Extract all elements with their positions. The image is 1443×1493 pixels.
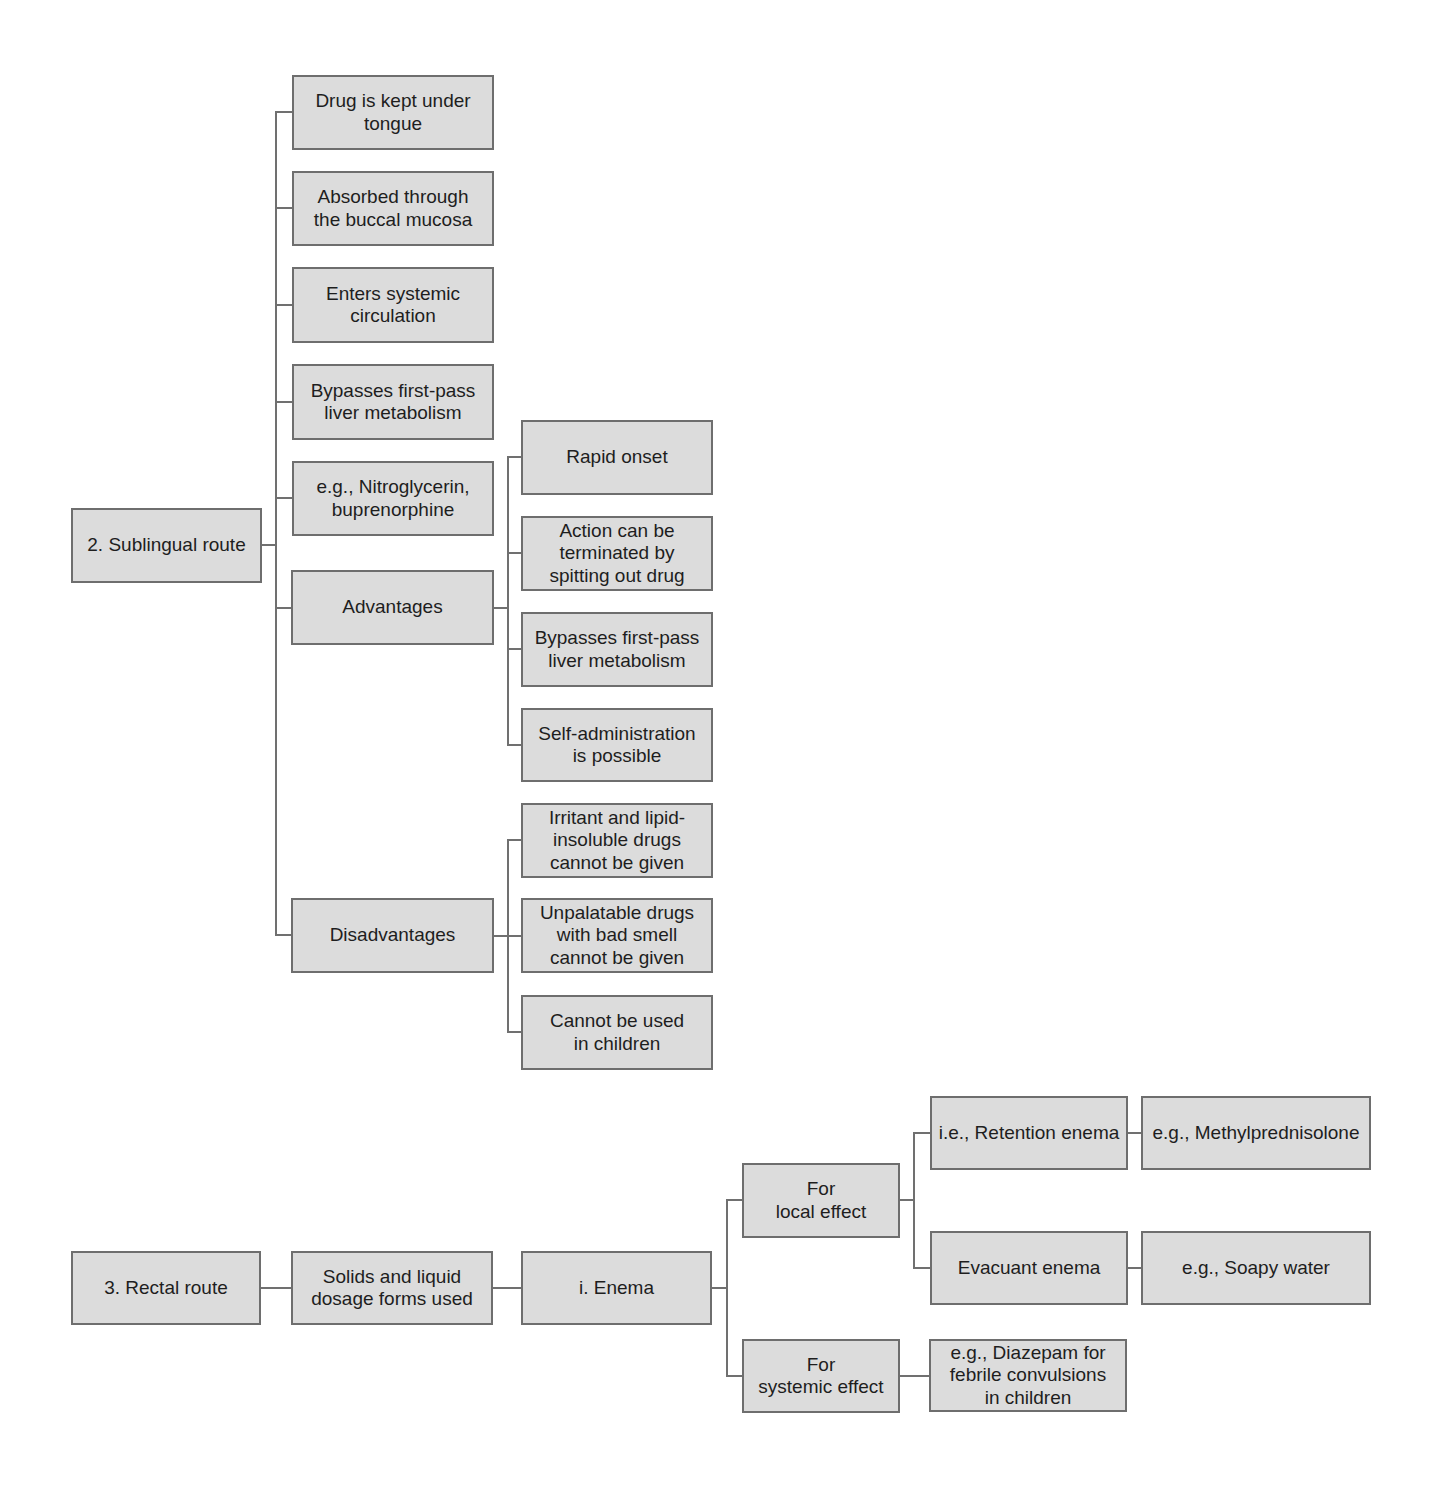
sublingual-child-systemic-circulation: Enters systemic circulation	[292, 267, 494, 343]
connector	[913, 1267, 930, 1269]
connector	[260, 1287, 291, 1289]
advantage-terminate-by-spitting: Action can be terminated by spitting out…	[521, 516, 713, 591]
connector	[1127, 1267, 1141, 1269]
evacuant-example-soapy-water: e.g., Soapy water	[1141, 1231, 1371, 1305]
connector	[493, 607, 508, 609]
advantage-bypass-first-pass: Bypasses first-pass liver metabolism	[521, 612, 713, 687]
connector	[726, 1199, 728, 1376]
sublingual-child-kept-under-tongue: Drug is kept under tongue	[292, 75, 494, 150]
connector	[913, 1132, 930, 1134]
evacuant-enema: Evacuant enema	[930, 1231, 1128, 1305]
connector	[1127, 1132, 1141, 1134]
connector	[275, 497, 292, 499]
connector	[507, 648, 522, 650]
connector	[899, 1199, 914, 1201]
connector	[507, 456, 509, 746]
connector	[275, 111, 277, 936]
retention-enema: i.e., Retention enema	[930, 1096, 1128, 1170]
enema-systemic-effect: For systemic effect	[742, 1339, 900, 1413]
connector	[492, 1287, 522, 1289]
disadvantage-unpalatable-drugs: Unpalatable drugs with bad smell cannot …	[521, 898, 713, 973]
connector	[261, 544, 276, 546]
connector	[507, 456, 522, 458]
enema-local-effect: For local effect	[742, 1163, 900, 1238]
connector	[726, 1375, 742, 1377]
connector	[507, 839, 522, 841]
disadvantage-children: Cannot be used in children	[521, 995, 713, 1070]
connector	[275, 934, 292, 936]
retention-example-methylprednisolone: e.g., Methylprednisolone	[1141, 1096, 1371, 1170]
connector	[507, 935, 522, 937]
sublingual-child-buccal-absorption: Absorbed through the buccal mucosa	[292, 171, 494, 246]
rectal-route-root: 3. Rectal route	[71, 1251, 261, 1325]
connector	[275, 111, 292, 113]
connector	[507, 744, 522, 746]
connector	[711, 1287, 727, 1289]
connector	[899, 1375, 929, 1377]
flowchart-canvas: 2. Sublingual route Drug is kept under t…	[0, 0, 1443, 1493]
sublingual-child-bypass-first-pass: Bypasses first-pass liver metabolism	[292, 364, 494, 440]
sublingual-disadvantages: Disadvantages	[291, 898, 494, 973]
disadvantage-irritant-drugs: Irritant and lipid- insoluble drugs cann…	[521, 803, 713, 878]
connector	[275, 207, 292, 209]
rectal-enema: i. Enema	[521, 1251, 712, 1325]
connector	[275, 607, 292, 609]
connector	[507, 1031, 522, 1033]
advantage-self-administration: Self-administration is possible	[521, 708, 713, 782]
connector	[507, 552, 522, 554]
rectal-dosage-forms: Solids and liquid dosage forms used	[291, 1251, 493, 1325]
connector	[493, 935, 508, 937]
sublingual-route-root: 2. Sublingual route	[71, 508, 262, 583]
connector	[913, 1132, 915, 1269]
advantage-rapid-onset: Rapid onset	[521, 420, 713, 495]
sublingual-child-examples: e.g., Nitroglycerin, buprenorphine	[292, 461, 494, 536]
sublingual-advantages: Advantages	[291, 570, 494, 645]
connector	[275, 304, 292, 306]
connector	[726, 1199, 742, 1201]
systemic-example-diazepam: e.g., Diazepam for febrile convulsions i…	[929, 1339, 1127, 1412]
connector	[275, 401, 292, 403]
